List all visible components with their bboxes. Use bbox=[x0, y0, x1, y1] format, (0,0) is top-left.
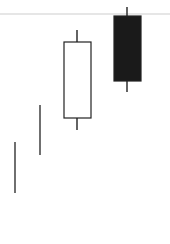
candlestick-chart bbox=[0, 0, 170, 244]
bullish-candle-body-3 bbox=[64, 42, 91, 118]
bearish-candle-body-4 bbox=[114, 16, 141, 81]
